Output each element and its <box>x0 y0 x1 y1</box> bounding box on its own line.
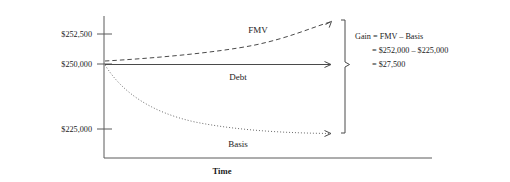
basis-curve <box>105 65 330 134</box>
gain-annotation-line-2: = $252,000 – $225,000 <box>372 46 448 55</box>
y-axis-label-mid: $250,000 <box>61 60 92 69</box>
gain-fmv-basis-chart: $252,500 $250,000 $225,000 FMV Debt Basi… <box>0 0 510 182</box>
gain-annotation-line-3: = $27,500 <box>372 60 405 69</box>
gain-brace <box>341 20 350 133</box>
series-label-fmv: FMV <box>248 25 268 35</box>
y-axis-label-bottom: $225,000 <box>61 125 92 134</box>
series-label-debt: Debt <box>229 72 247 82</box>
y-axis-label-top: $252,500 <box>61 30 92 39</box>
x-axis-title: Time <box>213 166 232 176</box>
gain-annotation-line-1: Gain = FMV – Basis <box>355 32 423 41</box>
fmv-curve <box>105 22 330 61</box>
series-label-basis: Basis <box>228 139 248 149</box>
